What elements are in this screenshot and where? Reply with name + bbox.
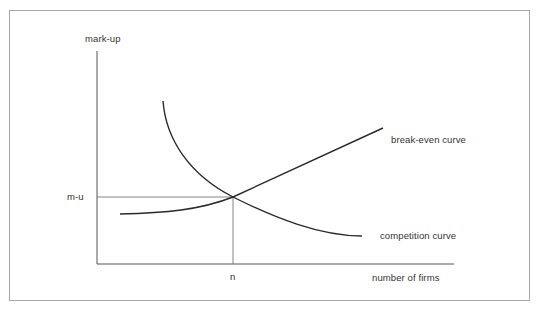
competition-curve [163,101,362,236]
y-axis-label: mark-up [85,33,121,44]
break-even-curve [120,128,383,214]
break-even-curve-label: break-even curve [391,134,466,145]
y-tick-mu: m-u [67,191,84,202]
x-tick-n: n [230,271,235,282]
chart-canvas [0,0,540,312]
x-axis-label: number of firms [372,272,440,283]
competition-curve-label: competition curve [380,230,456,241]
